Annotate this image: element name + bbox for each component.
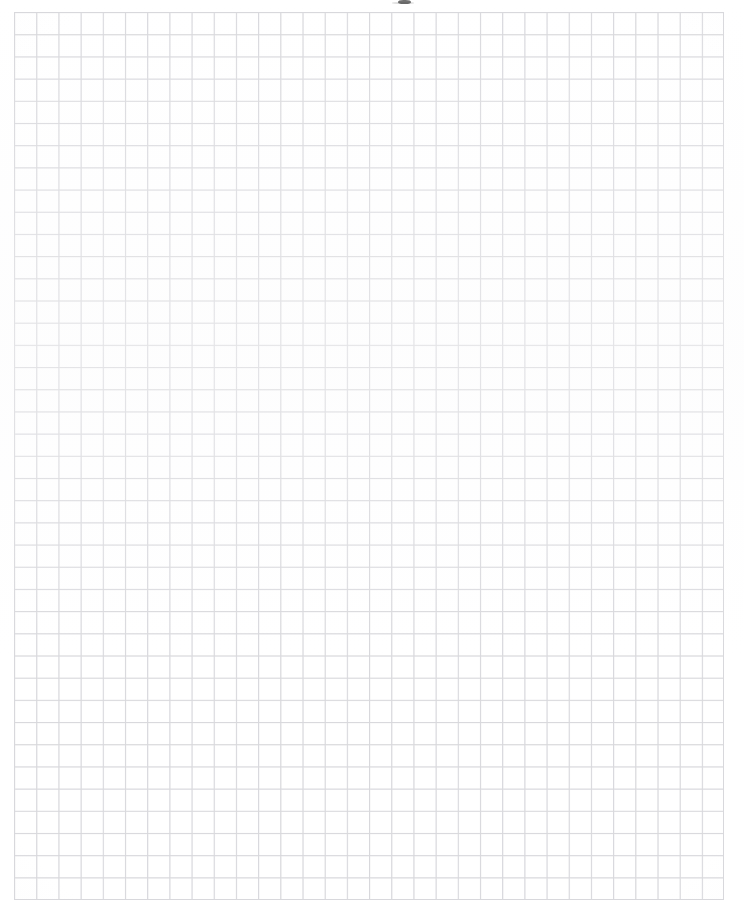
sheet-margin-left [0,0,14,910]
sheet-margin-right [724,0,744,910]
sheet-margin-bottom [0,900,744,910]
grid-lines-scan-softening [14,12,724,900]
top-edge-ink-mark [398,0,411,4]
sheet-margin-top [0,0,744,12]
grid-border-top [14,12,724,13]
grid-paper-sheet [14,12,724,900]
grid-border-right [723,12,724,900]
page-canvas: Blank graph paper sheet cropped ink mark [0,0,744,910]
grid-border-left [14,12,15,900]
grid-border-bottom [14,899,724,900]
